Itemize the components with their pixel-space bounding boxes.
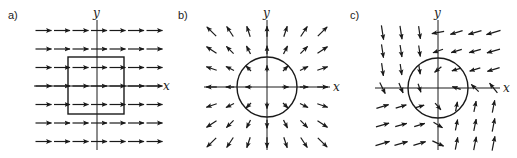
field-arrow — [400, 45, 402, 57]
field-arrow — [207, 121, 217, 128]
field-arrow — [413, 142, 425, 146]
field-arrow — [247, 120, 251, 128]
field-arrow — [396, 105, 407, 108]
field-arrow — [226, 104, 234, 108]
field-arrow — [474, 119, 476, 131]
field-arrow — [226, 120, 233, 127]
field-arrow — [300, 104, 308, 108]
field-arrow — [376, 141, 390, 145]
field-arrow — [400, 26, 402, 39]
panel-b-x-label: x — [333, 80, 340, 94]
field-arrow — [492, 100, 494, 112]
panel-a-label: a) — [8, 9, 18, 21]
field-arrow — [246, 66, 251, 71]
field-arrow — [414, 123, 425, 126]
field-arrow — [382, 44, 384, 57]
panel-c: c) y x — [350, 6, 510, 151]
field-arrow — [283, 103, 288, 108]
field-arrow — [318, 121, 328, 128]
vector-field-figure: a) y x b) y x c) y x — [0, 0, 517, 158]
field-arrow — [451, 49, 462, 52]
field-arrow — [419, 65, 420, 74]
field-arrow — [317, 67, 327, 70]
field-arrow — [487, 30, 501, 34]
field-arrow — [470, 68, 481, 71]
field-arrow — [318, 27, 327, 36]
field-arrow — [376, 123, 389, 127]
field-arrow — [226, 46, 233, 53]
field-arrow — [247, 137, 250, 147]
field-arrow — [395, 123, 407, 126]
field-arrow — [227, 27, 234, 37]
field-arrow — [300, 120, 307, 127]
field-arrow — [376, 105, 388, 109]
field-arrow — [206, 67, 216, 70]
field-arrow — [301, 138, 308, 148]
panel-c-y-label: y — [433, 6, 441, 20]
field-arrow — [395, 142, 408, 146]
panel-b: b) y x — [178, 6, 340, 150]
field-arrow — [381, 25, 383, 39]
field-arrow — [283, 66, 288, 71]
field-arrow — [207, 138, 216, 147]
field-arrow — [456, 102, 458, 111]
field-arrow — [419, 46, 421, 57]
field-arrow — [284, 137, 287, 147]
panel-a-arrows — [36, 31, 163, 142]
panel-c-label: c) — [350, 9, 359, 21]
panel-c-x-label: x — [503, 81, 510, 95]
field-arrow — [492, 136, 495, 150]
field-arrow — [318, 138, 327, 147]
field-arrow — [318, 47, 328, 54]
field-arrow — [246, 103, 251, 108]
field-arrow — [474, 101, 476, 112]
field-arrow — [450, 31, 462, 35]
field-arrow — [207, 47, 217, 54]
field-arrow — [300, 46, 307, 53]
field-arrow — [247, 26, 250, 36]
panel-a-x-label: x — [163, 79, 170, 93]
field-arrow — [227, 138, 234, 148]
field-arrow — [382, 63, 384, 76]
field-arrow — [284, 46, 288, 54]
field-arrow — [226, 67, 234, 71]
panel-b-y-label: y — [262, 6, 270, 20]
field-arrow — [452, 68, 461, 71]
panel-a-y-label: y — [92, 6, 100, 20]
field-arrow — [469, 49, 481, 52]
panel-a: a) y x — [8, 6, 170, 150]
field-arrow — [455, 120, 457, 131]
field-arrow — [300, 67, 308, 71]
field-arrow — [487, 68, 499, 72]
panel-b-label: b) — [178, 9, 188, 21]
field-arrow — [284, 26, 287, 36]
field-arrow — [469, 31, 482, 35]
field-arrow — [474, 137, 477, 150]
field-arrow — [400, 64, 402, 75]
field-arrow — [487, 49, 500, 53]
field-arrow — [247, 46, 251, 54]
field-arrow — [207, 27, 216, 36]
field-arrow — [419, 26, 421, 39]
field-arrow — [455, 137, 457, 149]
field-arrow — [206, 104, 216, 107]
field-arrow — [317, 104, 327, 107]
field-arrow — [301, 27, 308, 37]
field-arrow — [284, 120, 288, 128]
field-arrow — [492, 118, 495, 131]
field-arrow — [415, 105, 424, 108]
